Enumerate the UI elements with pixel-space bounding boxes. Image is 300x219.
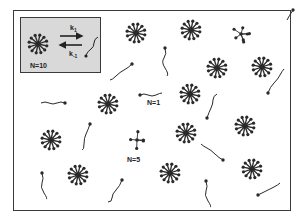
monomer-head-icon: [63, 101, 66, 104]
micelle-diagram: [0, 0, 300, 219]
monomer-head-icon: [266, 91, 269, 94]
monomer-label: N=1: [147, 99, 160, 106]
monomer-head-icon: [138, 93, 141, 96]
monomer-head-icon: [204, 179, 207, 182]
monomer-head-icon: [163, 46, 166, 49]
monomer-head-icon: [120, 178, 123, 181]
partial-micelle-label: N=5: [127, 156, 140, 163]
monomer-head-icon: [130, 62, 133, 65]
monomer-head-icon: [88, 122, 91, 125]
inset-monomer-head-icon: [84, 54, 87, 57]
monomer-head-icon: [205, 116, 208, 119]
forward-rate-label: k1: [70, 24, 77, 33]
monomer-head-icon: [256, 193, 259, 196]
monomer-head-icon: [291, 8, 294, 11]
reverse-rate-label: k-1: [69, 50, 77, 59]
monomer-head-icon: [221, 158, 224, 161]
monomer-head-icon: [40, 171, 43, 174]
inset-aggregate-label: N=10: [30, 62, 47, 69]
